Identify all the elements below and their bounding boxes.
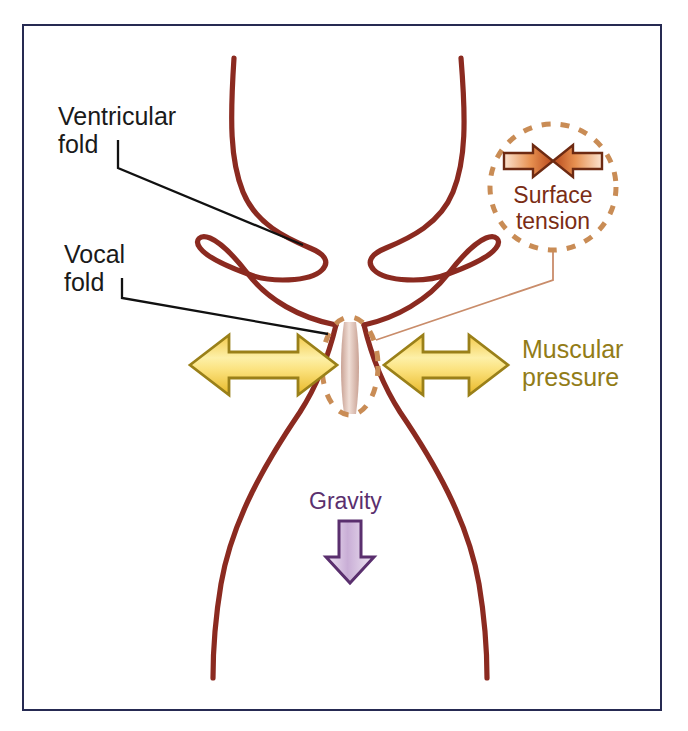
muscular-pressure-arrow-right <box>384 335 508 395</box>
gravity-arrow <box>326 521 374 583</box>
ventricular-fold-right <box>370 58 464 280</box>
label-ventricular-fold: Ventricular fold <box>58 102 176 158</box>
surface-tension-leader <box>376 250 553 340</box>
label-gravity: Gravity <box>309 489 382 515</box>
vocal-fold-leader <box>122 278 328 334</box>
surface-tension-arrow-left <box>504 145 553 177</box>
glottis-channel <box>341 322 359 414</box>
label-muscular-pressure: Muscular pressure <box>522 335 623 391</box>
figure-root: Ventricular fold Vocal fold Surface tens… <box>0 0 688 731</box>
surface-tension-arrow-right <box>553 145 602 177</box>
ventricular-fold-left <box>232 58 326 280</box>
label-vocal-fold: Vocal fold <box>64 240 125 296</box>
label-surface-tension: Surface tension <box>473 183 633 235</box>
